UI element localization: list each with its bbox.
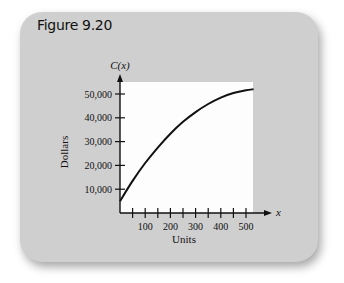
plot-area (120, 82, 253, 213)
y-axis-arrow-icon (117, 74, 123, 82)
y-ticks: 10,00020,00030,00040,00050,000 (85, 89, 126, 195)
x-axis-arrow-icon (264, 210, 272, 216)
y-tick-label: 40,000 (85, 112, 113, 123)
y-axis-symbol: C(x) (110, 59, 130, 72)
chart: 10,00020,00030,00040,00050,000 100200300… (0, 0, 344, 283)
y-tick-label: 20,000 (85, 160, 113, 171)
x-axis-label: Units (172, 233, 196, 245)
x-tick-label: 200 (163, 221, 178, 232)
x-tick-label: 400 (213, 221, 228, 232)
x-tick-label: 100 (138, 221, 153, 232)
y-tick-label: 30,000 (85, 136, 113, 147)
y-axis-label: Dollars (58, 136, 70, 168)
x-tick-label: 500 (239, 221, 254, 232)
x-tick-label: 300 (188, 221, 203, 232)
x-axis-symbol: x (275, 206, 281, 218)
y-tick-label: 50,000 (85, 89, 113, 100)
y-tick-label: 10,000 (85, 184, 113, 195)
